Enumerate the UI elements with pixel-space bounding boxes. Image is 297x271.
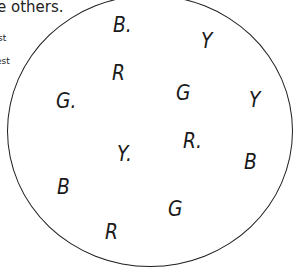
cropped-question-text: e others. xyxy=(0,0,64,16)
letter-b: B xyxy=(57,176,70,198)
letter-y: Y xyxy=(249,89,260,111)
cropped-option-text-2: est xyxy=(0,56,10,66)
letter-r: R xyxy=(112,62,125,84)
letter-r: R xyxy=(105,221,118,243)
letter-y: Y xyxy=(201,30,212,52)
letter-circle xyxy=(7,0,293,267)
letter-b: B xyxy=(244,151,257,173)
letter-b-dot: B. xyxy=(113,14,132,36)
letter-r-dot: R. xyxy=(183,130,202,152)
letter-g: G xyxy=(168,198,183,220)
cropped-option-text-1: st xyxy=(0,33,6,43)
letter-g-dot: G. xyxy=(56,90,76,112)
letter-g: G xyxy=(176,82,191,104)
letter-y-dot: Y. xyxy=(117,143,132,165)
